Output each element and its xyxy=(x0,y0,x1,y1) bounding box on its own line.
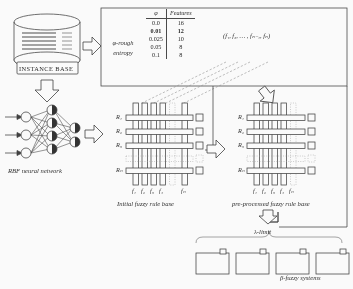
entropy-table: φFeatures0.0160.01120.025100.0580.18 xyxy=(146,9,195,59)
network-caption: RBF neural network xyxy=(8,167,62,174)
entropy-method-label: φ-rough entropy xyxy=(103,38,143,58)
initial-col-label-1: f₁ xyxy=(132,187,136,194)
beta-fuzzy-systems-label: β-fuzzy systems xyxy=(280,274,320,281)
beta-system-boxes xyxy=(196,249,349,274)
entropy-phi-value: 0.025 xyxy=(146,35,166,43)
initial-col-label-4: f₄ xyxy=(159,187,163,194)
entropy-method-line1: φ-rough xyxy=(103,38,143,48)
preprocessed-row-label-3: R₃ xyxy=(238,141,244,148)
preprocessed-rule-base-graphic xyxy=(247,103,315,185)
lambda-limit-label: λ-limit xyxy=(254,228,271,235)
preprocessed-col-label-3: f₃ xyxy=(271,187,275,194)
entropy-phi-value: 0.1 xyxy=(146,51,166,59)
entropy-phi-value: 0.05 xyxy=(146,43,166,51)
feature-set-label: (f₁, f₂, … , fₙ₋₁, fₙ) xyxy=(223,32,270,40)
entropy-table-header-row: φFeatures xyxy=(146,9,195,18)
entropy-features-value: 16 xyxy=(166,18,194,27)
entropy-table-row: 0.02510 xyxy=(146,35,195,43)
arrow-db-to-entropy xyxy=(83,37,101,55)
entropy-phi-value: 0.0 xyxy=(146,18,166,27)
preprocessed-col-label-2: f₂ xyxy=(262,187,266,194)
initial-rule-base-graphic xyxy=(126,103,203,185)
initial-row-label-1: R₁ xyxy=(116,113,122,120)
entropy-table-row: 0.0112 xyxy=(146,27,195,35)
initial-row-label-3: R₃ xyxy=(116,141,122,148)
initial-col-label-2: f₂ xyxy=(141,187,145,194)
preprocessed-col-label-1: f₁ xyxy=(253,187,257,194)
entropy-features-value: 10 xyxy=(166,35,194,43)
preprocessed-col-label-4: f₄ xyxy=(280,187,284,194)
arrow-db-to-network xyxy=(35,80,59,102)
preprocessed-row-label-1: R₁ xyxy=(238,113,244,120)
database-label: INSTANCE BASE xyxy=(19,65,73,72)
neural-network-icon xyxy=(5,105,80,158)
entropy-features-value: 12 xyxy=(166,27,194,35)
arrow-to-preprocessed xyxy=(207,140,225,158)
arrow-network-to-rulebase xyxy=(85,125,103,143)
feature-mapping-lines xyxy=(140,62,268,104)
entropy-features-value: 8 xyxy=(166,43,194,51)
entropy-table-header-phi: φ xyxy=(146,9,166,18)
entropy-phi-value: 0.01 xyxy=(146,27,166,35)
connector-rulebase-to-preprocess xyxy=(205,86,213,150)
entropy-table-row: 0.058 xyxy=(146,43,195,51)
initial-col-label-5: fₙ xyxy=(181,187,185,194)
preprocessed-row-label-2: R₂ xyxy=(238,127,244,134)
preprocessed-col-label-5: fₙ xyxy=(289,187,293,194)
initial-col-label-3: f₃ xyxy=(150,187,154,194)
diagram-canvas: .st{fill:none;stroke:#3a3a3a;stroke-widt… xyxy=(0,0,353,289)
entropy-table-row: 0.016 xyxy=(146,18,195,27)
preprocessed-rule-base-caption: pre-processed fuzzy rule base xyxy=(232,200,310,207)
initial-row-label-4: Rₙ xyxy=(116,166,122,173)
entropy-method-line2: entropy xyxy=(103,48,143,58)
entropy-features-value: 8 xyxy=(166,51,194,59)
entropy-table-row: 0.18 xyxy=(146,51,195,59)
initial-rule-base-caption: Initial fuzzy rule base xyxy=(117,200,174,207)
initial-row-label-2: R₂ xyxy=(116,127,122,134)
entropy-table-header-features: Features xyxy=(166,9,194,18)
preprocessed-row-label-4: Rₙ xyxy=(238,166,244,173)
